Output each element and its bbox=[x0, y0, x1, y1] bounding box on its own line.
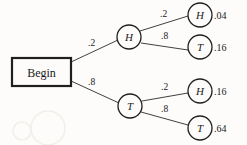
node-t1h2-label: H bbox=[195, 85, 205, 97]
edge-t1-to-h2 bbox=[142, 93, 188, 101]
begin-node-label: Begin bbox=[27, 66, 56, 80]
edge-h1-to-t2 bbox=[141, 43, 188, 50]
probability-tree-diagram: Begin H T H T H T .2 .8 .2 .8 .2 .8 .04 … bbox=[0, 0, 247, 145]
node-t1t2-label: T bbox=[197, 122, 204, 134]
scan-artifact bbox=[13, 111, 65, 145]
edge-weight-t1-t2: .8 bbox=[161, 104, 168, 114]
edge-weight-h1-h2: .2 bbox=[160, 9, 167, 19]
outcome-prob-th: .16 bbox=[214, 86, 227, 97]
node-h1t2-label: T bbox=[197, 41, 204, 53]
tree-diagram-canvas: Begin H T H T H T .2 .8 .2 .8 .2 .8 .04 … bbox=[0, 0, 247, 145]
edge-weight-begin-h1: .2 bbox=[88, 38, 95, 48]
edge-weight-t1-h2: .2 bbox=[161, 82, 168, 92]
outcome-prob-hh: .04 bbox=[214, 10, 227, 21]
node-h1h2-label: H bbox=[195, 9, 205, 21]
node-h1-label: H bbox=[124, 31, 134, 43]
edge-weight-begin-t1: .8 bbox=[88, 77, 95, 87]
node-t1-label: T bbox=[127, 100, 134, 112]
edge-weight-h1-t2: .8 bbox=[161, 31, 168, 41]
outcome-prob-tt: .64 bbox=[214, 123, 227, 134]
outcome-prob-ht: .16 bbox=[214, 42, 227, 53]
